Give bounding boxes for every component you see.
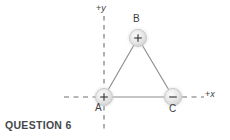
charge-b-label: B xyxy=(133,13,140,24)
question-number-label: QUESTION 6 xyxy=(5,119,72,131)
charge-a-label: A xyxy=(95,102,102,113)
charge-c-label: C xyxy=(169,103,176,114)
x-axis-label: +x xyxy=(205,89,215,99)
charge-b xyxy=(126,26,150,50)
figure-container: +y +x A B C QUESTION 6 xyxy=(0,0,230,140)
y-axis-label: +y xyxy=(96,3,106,13)
